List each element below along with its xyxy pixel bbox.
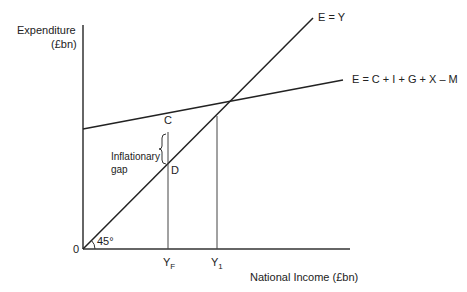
line-45-degree bbox=[83, 18, 313, 249]
y-axis-label: Expenditure bbox=[17, 24, 76, 37]
point-c-label: C bbox=[164, 114, 172, 127]
x-axis-label: National Income (£bn) bbox=[250, 271, 358, 284]
gap-label: Inflationary bbox=[111, 150, 160, 163]
gap-brace bbox=[159, 134, 166, 164]
angle-arc bbox=[92, 241, 96, 250]
y-axis-unit: (£bn) bbox=[51, 38, 77, 51]
angle-label: 45° bbox=[97, 235, 114, 248]
origin-label: 0 bbox=[73, 243, 79, 256]
tick-y1: Y1 bbox=[211, 256, 223, 273]
line-45-label: E = Y bbox=[318, 11, 345, 24]
gap-label-2: gap bbox=[111, 163, 128, 176]
point-d-label: D bbox=[171, 164, 179, 177]
tick-yf: YF bbox=[163, 256, 175, 273]
ad-line-label: E = C + I + G + X – M bbox=[352, 73, 458, 86]
aggregate-demand-line bbox=[83, 80, 343, 129]
